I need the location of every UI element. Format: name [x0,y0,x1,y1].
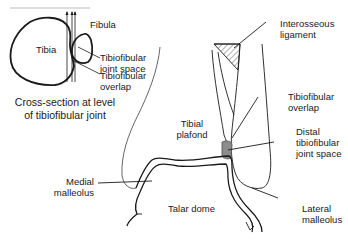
label-lateral-malleolus: Lateral malleolus [302,203,342,225]
label-tibiofibular-overlap: Tibiofibular overlap [288,91,334,113]
label-interosseous-ligament: Interosseous ligament [280,18,334,40]
label-tibial-plafond: Tibial plafond [172,118,212,140]
label-tibia: Tibia [36,44,56,55]
label-fibula: Fibula [90,19,116,30]
label-distal-joint-space: Distal tibiofibular joint space [296,126,341,159]
label-inset-overlap: Tibiofibular overlap [100,70,146,92]
inset-caption: Cross-section at level of tibiofibular j… [6,96,124,121]
label-medial-malleolus: Medial malleolus [50,176,94,198]
label-talar-dome: Talar dome [168,203,215,214]
